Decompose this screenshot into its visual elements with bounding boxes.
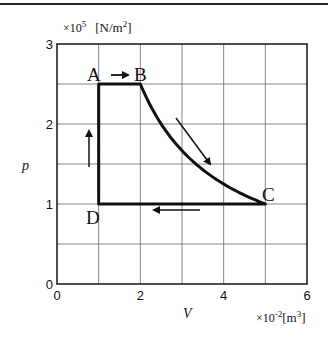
point-label-d: D — [86, 207, 100, 228]
x-tick-label: 2 — [137, 288, 144, 303]
y-tick-label: 2 — [46, 117, 53, 132]
point-label-a: A — [87, 64, 101, 85]
y-axis-label: p — [21, 158, 29, 173]
point-label-b: B — [134, 64, 147, 85]
y-tick-label: 3 — [46, 37, 53, 52]
y-tick-labels: 0123 — [46, 37, 53, 292]
x-axis-unit: ×10-2[m3] — [256, 309, 306, 325]
x-tick-label: 0 — [53, 288, 60, 303]
x-axis-label: V — [183, 306, 193, 321]
x-tick-label: 4 — [220, 288, 227, 303]
x-tick-label: 6 — [303, 288, 310, 303]
x-tick-labels: 0246 — [53, 288, 310, 303]
y-tick-label: 0 — [46, 277, 53, 292]
y-tick-label: 1 — [46, 197, 53, 212]
pv-diagram: A B C D 0123 0246 p V ×105[N/m2] ×10-2[m… — [0, 0, 328, 343]
y-axis-unit: ×105[N/m2] — [63, 19, 132, 35]
arrow-down-right-icon — [176, 118, 210, 164]
point-label-c: C — [262, 184, 275, 205]
